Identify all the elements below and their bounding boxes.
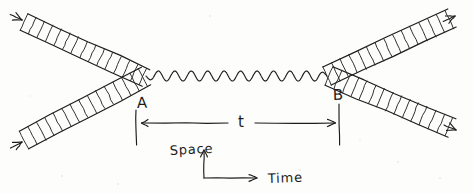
spacetime-diagram-figure: A B t Space Time — [0, 0, 473, 193]
diagram-canvas: A B t Space Time — [0, 0, 473, 193]
interval-line-left — [144, 123, 228, 124]
interval-label-t: t — [238, 113, 244, 131]
axis-label-time: Time — [267, 170, 304, 186]
axis-label-space: Space — [169, 141, 213, 158]
vertex-b-label: B — [333, 86, 345, 104]
vertex-b-tick — [339, 104, 340, 145]
vertex-a-label: A — [137, 94, 149, 112]
